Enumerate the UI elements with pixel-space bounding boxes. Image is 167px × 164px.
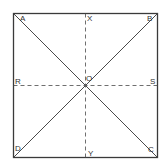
square-diagram: A B C D O X Y R S [0, 0, 167, 164]
label-c: C [148, 145, 154, 154]
label-y: Y [88, 149, 94, 158]
label-s: S [150, 77, 155, 86]
label-b: B [147, 14, 152, 23]
label-r: R [15, 77, 21, 86]
label-a: A [20, 14, 26, 23]
label-x: X [87, 14, 93, 23]
label-o: O [86, 74, 92, 83]
diagram-canvas: A B C D O X Y R S [0, 0, 167, 164]
label-d: D [15, 144, 21, 153]
